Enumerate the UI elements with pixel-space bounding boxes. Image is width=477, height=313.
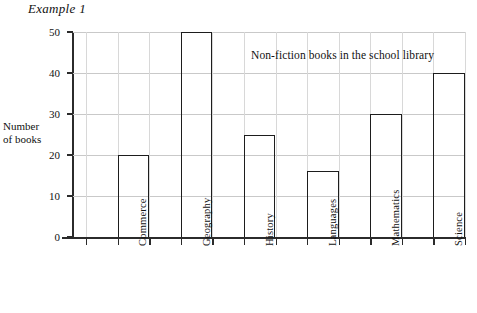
x-axis-category-label: Languages bbox=[327, 199, 338, 246]
x-axis-tick bbox=[244, 237, 245, 245]
x-axis-tick bbox=[339, 237, 340, 245]
gridline-vertical bbox=[465, 32, 466, 237]
y-axis-tick bbox=[67, 236, 73, 237]
x-axis-tick bbox=[212, 237, 213, 245]
y-axis-tick-label: 30 bbox=[20, 109, 60, 120]
x-axis-category-label: Science bbox=[453, 212, 464, 246]
bar-chart-figure: Example 1 Number of books 01020304050 No… bbox=[0, 0, 477, 313]
gridline-vertical bbox=[212, 32, 213, 237]
gridline-horizontal bbox=[72, 32, 465, 33]
y-axis-line bbox=[72, 32, 74, 237]
x-axis-tick bbox=[370, 237, 371, 245]
y-axis-title-line-2: of books bbox=[3, 133, 41, 146]
y-axis-tick-label: 20 bbox=[20, 150, 60, 161]
gridline-vertical bbox=[86, 32, 87, 237]
y-axis-tick-label: 40 bbox=[20, 68, 60, 79]
y-axis-tick-label: 0 bbox=[20, 232, 60, 243]
x-axis-category-label: Geography bbox=[201, 198, 212, 246]
gridline-vertical bbox=[276, 32, 277, 237]
x-axis-tick bbox=[181, 237, 182, 245]
gridline-horizontal bbox=[72, 73, 465, 74]
y-axis-tick-label: 10 bbox=[20, 191, 60, 202]
gridline-horizontal bbox=[72, 114, 465, 115]
gridline-vertical bbox=[149, 32, 150, 237]
x-axis-tick bbox=[118, 237, 119, 245]
y-axis-title-line-1: Number bbox=[3, 120, 41, 133]
example-label: Example 1 bbox=[28, 1, 86, 17]
y-axis-tick bbox=[67, 113, 73, 114]
x-axis-tick bbox=[465, 237, 466, 245]
y-axis-title: Number of books bbox=[3, 120, 41, 145]
plot-area: 01020304050 bbox=[72, 32, 465, 237]
x-axis-category-label: Mathematics bbox=[390, 190, 401, 246]
x-axis-tick bbox=[433, 237, 434, 245]
x-axis-tick bbox=[276, 237, 277, 245]
x-axis-category-label: Commerce bbox=[137, 198, 148, 246]
x-axis-tick bbox=[402, 237, 403, 245]
x-axis-tick bbox=[86, 237, 87, 245]
x-axis-tick bbox=[307, 237, 308, 245]
gridline-vertical bbox=[402, 32, 403, 237]
y-axis-tick bbox=[67, 154, 73, 155]
x-axis-tick bbox=[149, 237, 150, 245]
y-axis-tick bbox=[67, 72, 73, 73]
y-axis-tick bbox=[67, 195, 73, 196]
x-axis-category-label: History bbox=[264, 213, 275, 246]
chart-annotation-title: Non-fiction books in the school library bbox=[251, 49, 434, 61]
gridline-vertical bbox=[339, 32, 340, 237]
y-axis-tick-label: 50 bbox=[20, 27, 60, 38]
y-axis-tick bbox=[67, 31, 73, 32]
